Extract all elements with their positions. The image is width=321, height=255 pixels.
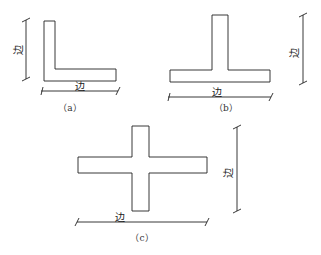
l-section-shape [44,21,116,81]
caption-c: （c） [130,233,153,243]
t-section-shape [170,15,270,82]
edge-label-b-vertical: 边 [289,48,300,58]
edge-label-c-horizontal: 边 [115,212,125,223]
edge-label-c-vertical: 边 [223,168,234,178]
diagram-canvas: 边 边 边 边 边 边 （a） （b） （c） [0,0,321,255]
edge-label-b-horizontal: 边 [212,87,222,98]
edge-label-a-horizontal: 边 [75,81,85,92]
caption-a: （a） [58,103,81,113]
edge-label-a-vertical: 边 [13,45,24,55]
cross-section-shape [78,126,207,211]
caption-b: （b） [214,103,238,113]
